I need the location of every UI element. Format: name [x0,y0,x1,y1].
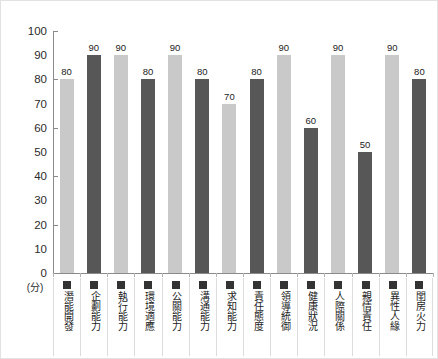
x-axis-separator [80,273,81,277]
category-cell[interactable]: 企劃能力 [80,278,107,356]
legend-swatch-icon [144,281,152,289]
x-axis-separator [216,273,217,277]
x-axis-separator [433,273,434,277]
bar-slot: 60 [297,31,324,273]
category-label: 企劃能力 [89,291,100,331]
legend-swatch-icon [307,281,315,289]
bar-value-label: 90 [387,43,398,53]
x-axis-separator [162,273,163,277]
category-label: 閨房火力 [414,291,425,331]
bar[interactable] [250,79,264,273]
x-axis-separator [53,273,54,277]
category-cell[interactable]: 執行能力 [107,278,134,356]
bar-slot: 90 [80,31,107,273]
bar-value-label: 50 [360,140,371,150]
bar-value-label: 80 [251,67,262,77]
bar-slot: 90 [270,31,297,273]
legend-swatch-icon [389,281,397,289]
bar-value-label: 90 [116,43,127,53]
bar[interactable] [141,79,155,273]
bar[interactable] [222,104,236,273]
category-cell[interactable]: 異性人緣 [379,278,406,356]
bar-value-label: 90 [333,43,344,53]
x-axis-separator [352,273,353,277]
category-label: 健康狀況 [306,291,317,331]
y-axis-tick-label: 70 [3,98,47,110]
bar-slot: 80 [189,31,216,273]
bar[interactable] [304,128,318,273]
x-axis-separator [189,273,190,277]
y-axis-unit-label: (分) [15,279,55,294]
legend-swatch-icon [415,281,423,289]
category-label: 領導統御 [279,291,290,331]
category-cell[interactable]: 潛能開發 [53,278,80,356]
bar-value-label: 90 [88,43,99,53]
y-axis-tick-label: 0 [3,267,47,279]
bar[interactable] [114,55,128,273]
category-cell[interactable]: 領導統御 [270,278,297,356]
bar-value-label: 80 [197,67,208,77]
y-axis-tick-label: 10 [3,243,47,255]
category-cell[interactable]: 閨房火力 [406,278,433,356]
bar-value-label: 90 [170,43,181,53]
bar-value-label: 60 [306,116,317,126]
category-label: 求知能力 [225,291,236,331]
x-axis-separator [297,273,298,277]
bar[interactable] [331,55,345,273]
bar[interactable] [195,79,209,273]
bar-value-label: 70 [224,92,235,102]
y-axis-tick-label: 50 [3,146,47,158]
category-label: 環境適應 [143,291,154,331]
category-cell[interactable]: 公關能力 [162,278,189,356]
y-axis-tick-label: 20 [3,219,47,231]
category-cell[interactable]: 健康狀況 [297,278,324,356]
bar-value-label: 90 [278,43,289,53]
x-axis-separator [324,273,325,277]
category-label: 執行能力 [116,291,127,331]
y-axis-tick-label: 40 [3,170,47,182]
x-axis-separator [134,273,135,277]
bar-value-label: 80 [143,67,154,77]
x-axis-separator [270,273,271,277]
legend-swatch-icon [199,281,207,289]
bar-slot: 80 [243,31,270,273]
category-cell[interactable]: 人際關係 [324,278,351,356]
bar[interactable] [60,79,74,273]
bar[interactable] [277,55,291,273]
category-cell[interactable]: 責任態度 [243,278,270,356]
bar-value-label: 80 [61,67,72,77]
bar-slot: 80 [53,31,80,273]
bar[interactable] [385,55,399,273]
bar-slot: 50 [352,31,379,273]
category-cell[interactable]: 求知能力 [216,278,243,356]
bar-slot: 90 [379,31,406,273]
bar[interactable] [168,55,182,273]
x-axis-separator [107,273,108,277]
category-label: 潛能開發 [62,291,73,331]
legend-swatch-icon [280,281,288,289]
x-axis-separator [243,273,244,277]
category-label: 溝通能力 [198,291,209,331]
plot-area: 8090908090807080906090509080 [53,31,433,273]
category-cell[interactable]: 親情責任 [352,278,379,356]
legend-swatch-icon [172,281,180,289]
bar[interactable] [87,55,101,273]
y-axis-tick-label: 100 [3,25,47,37]
legend-swatch-icon [334,281,342,289]
bar-slot: 80 [134,31,161,273]
bar[interactable] [358,152,372,273]
y-axis-tick-label: 60 [3,122,47,134]
category-cell[interactable]: 溝通能力 [189,278,216,356]
x-axis-separator [379,273,380,277]
category-label: 公關能力 [170,291,181,331]
legend-swatch-icon [226,281,234,289]
y-axis-tick-label: 80 [3,73,47,85]
legend-swatch-icon [253,281,261,289]
x-axis-separator [406,273,407,277]
y-axis-tick-label: 90 [3,49,47,61]
bar-chart-figure: 1009080706050403020100 80909080908070809… [0,0,438,359]
bar[interactable] [412,79,426,273]
category-label: 親情責任 [360,291,371,331]
category-label: 人際關係 [333,291,344,331]
category-cell[interactable]: 環境適應 [134,278,161,356]
